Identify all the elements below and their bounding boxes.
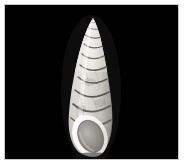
caption bbox=[5, 160, 178, 167]
photo-plate bbox=[0, 0, 184, 168]
gastropod-shell-specimen bbox=[5, 5, 178, 159]
shell-illustration bbox=[5, 5, 178, 159]
photo-background-field bbox=[5, 5, 178, 159]
